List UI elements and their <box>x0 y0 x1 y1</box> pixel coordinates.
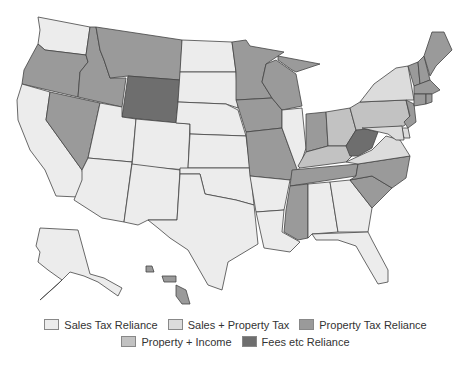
state-hawaii <box>176 285 190 304</box>
sales-property-swatch <box>168 319 183 330</box>
state-new-mexico <box>124 164 180 225</box>
legend-item-property-tax: Property Tax Reliance <box>299 319 426 331</box>
property-income-swatch <box>121 336 136 347</box>
state-wyoming <box>122 76 180 123</box>
state-north-dakota <box>180 40 236 72</box>
legend-label: Sales Tax Reliance <box>64 319 157 331</box>
state-arkansas <box>250 176 290 212</box>
state-alaska <box>36 228 122 300</box>
legend-row-2: Property + Income Fees etc Reliance <box>0 333 471 350</box>
legend-item-sales-tax: Sales Tax Reliance <box>44 319 157 331</box>
state-connecticut <box>414 94 426 106</box>
legend-row-1: Sales Tax Reliance Sales + Property Tax … <box>0 316 471 333</box>
state-kansas <box>188 134 250 168</box>
legend-label: Property Tax Reliance <box>319 319 426 331</box>
legend-label: Property + Income <box>141 336 231 348</box>
state-florida <box>312 232 388 284</box>
state-new-york <box>360 66 414 102</box>
state-hawaii-maui <box>162 276 176 282</box>
state-indiana <box>306 112 328 152</box>
legend-label: Fees etc Reliance <box>262 336 350 348</box>
property-tax-swatch <box>299 319 314 330</box>
map-legend: Sales Tax Reliance Sales + Property Tax … <box>0 316 471 350</box>
state-maine <box>424 32 452 76</box>
state-pennsylvania <box>350 100 410 130</box>
state-colorado <box>132 119 190 170</box>
sales-tax-swatch <box>44 319 59 330</box>
state-washington <box>38 17 90 55</box>
state-hawaii-islands <box>146 266 154 272</box>
legend-item-property-income: Property + Income <box>121 336 231 348</box>
legend-label: Sales + Property Tax <box>188 319 290 331</box>
fees-swatch <box>242 336 257 347</box>
state-montana <box>96 27 182 80</box>
state-rhode-island <box>426 94 432 104</box>
legend-item-sales-property: Sales + Property Tax <box>168 319 290 331</box>
legend-item-fees: Fees etc Reliance <box>242 336 350 348</box>
us-state-map <box>0 0 471 310</box>
